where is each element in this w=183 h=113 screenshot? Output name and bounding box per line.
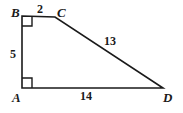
right-angle-marker-b [22,16,32,26]
side-length-ab: 5 [10,48,16,60]
quadrilateral-outline [22,16,163,88]
vertex-label-c: C [57,6,66,19]
right-angle-marker-a [22,78,32,88]
geometry-figure: B C D A 2 13 14 5 [0,0,183,113]
side-length-bc: 2 [37,3,43,15]
vertex-label-a: A [12,91,21,104]
side-length-cd: 13 [104,35,116,47]
side-length-ad: 14 [80,90,92,102]
vertex-label-d: D [163,91,172,104]
vertex-label-b: B [11,6,20,19]
